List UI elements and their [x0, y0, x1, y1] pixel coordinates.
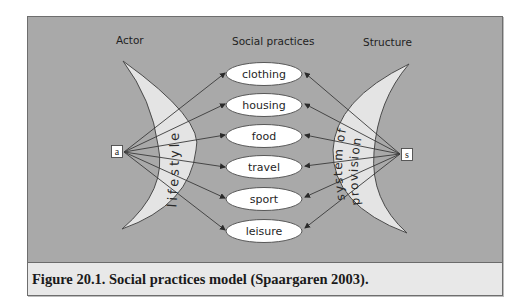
- svg-text:clothing: clothing: [242, 68, 286, 81]
- structure-node: s: [402, 149, 413, 161]
- actor-node: a: [112, 146, 123, 158]
- practice-oval-housing: housing: [226, 94, 302, 117]
- practice-oval-travel: travel: [226, 156, 302, 179]
- practice-oval-clothing: clothing: [226, 63, 302, 86]
- svg-text:housing: housing: [242, 99, 285, 112]
- svg-text:leisure: leisure: [246, 225, 283, 238]
- practice-oval-leisure: leisure: [226, 220, 302, 243]
- svg-text:food: food: [252, 130, 276, 143]
- header-actor: Actor: [116, 34, 144, 46]
- header-social-practices: Social practices: [232, 35, 314, 47]
- practice-oval-sport: sport: [226, 188, 302, 211]
- svg-text:a: a: [115, 146, 120, 157]
- practice-oval-food: food: [226, 125, 302, 148]
- header-structure: Structure: [363, 36, 412, 48]
- lifestyle-label: lifestyle: [164, 130, 182, 208]
- social-practices-diagram: Actor Social practices Structure lifesty…: [0, 0, 529, 306]
- svg-text:s: s: [405, 149, 409, 160]
- svg-text:sport: sport: [250, 193, 279, 206]
- svg-text:travel: travel: [248, 161, 280, 174]
